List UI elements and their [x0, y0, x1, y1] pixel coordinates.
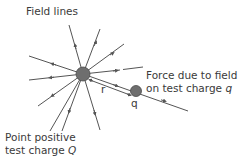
- point-label-text: test charge: [5, 144, 68, 156]
- test-charge-q: [131, 86, 142, 97]
- r-label: r: [101, 83, 105, 96]
- point-label-line1: Point positive: [5, 131, 76, 144]
- q-label: q: [131, 97, 138, 110]
- point-charge-label: Point positive test charge Q: [5, 131, 76, 156]
- field-lines-label: Field lines: [26, 5, 78, 18]
- force-label: Force due to field on test charge q: [146, 69, 237, 95]
- point-label-var: Q: [68, 144, 76, 156]
- point-label-line2: test charge Q: [5, 144, 76, 156]
- force-label-line2: on test charge q: [146, 82, 237, 95]
- point-charge-Q: [76, 67, 90, 81]
- force-label-text: on test charge: [146, 82, 225, 94]
- force-label-line1: Force due to field: [146, 69, 237, 82]
- force-label-var: q: [225, 82, 232, 94]
